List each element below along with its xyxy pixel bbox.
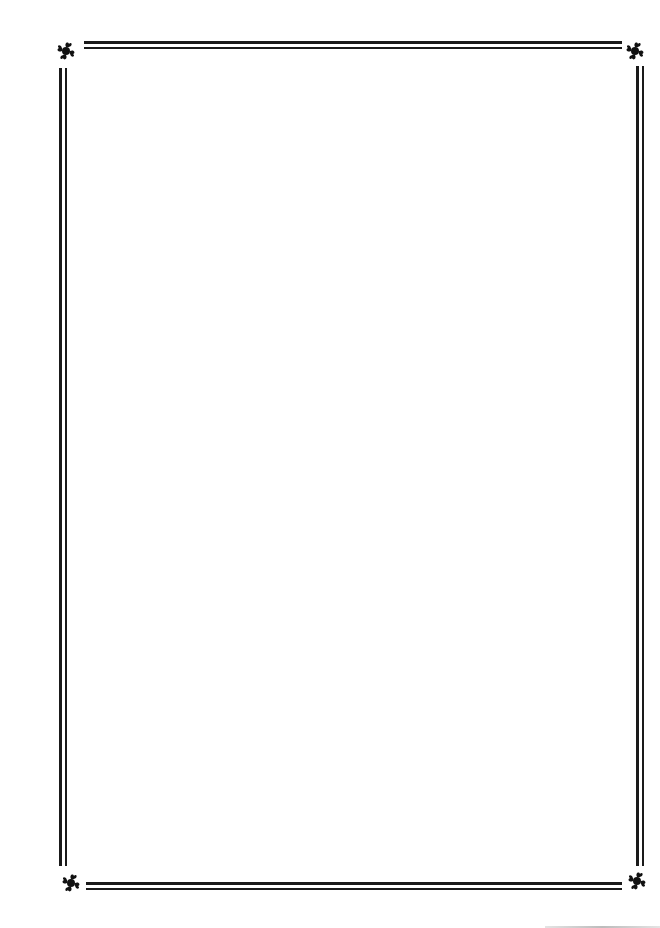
- left-border-inner: [65, 68, 67, 866]
- page: [0, 0, 660, 928]
- bottom-border-inner: [86, 888, 622, 890]
- top-border-inner: [84, 47, 622, 49]
- top-border-outer: [84, 41, 622, 44]
- bottom-border-outer: [86, 882, 622, 885]
- right-border-inner: [642, 66, 644, 866]
- page-content-area: [75, 60, 630, 875]
- right-border-outer: [636, 66, 639, 866]
- left-border-outer: [59, 68, 62, 866]
